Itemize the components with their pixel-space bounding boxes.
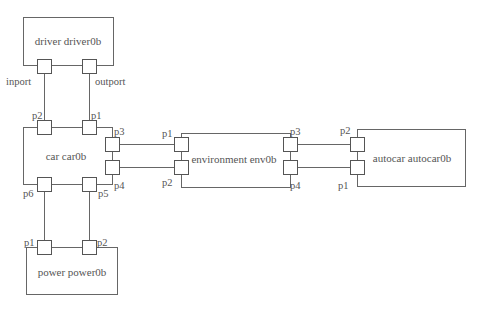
port-label: p2: [340, 125, 351, 136]
port-label: outport: [95, 76, 125, 87]
port-car-p2[interactable]: [38, 121, 52, 135]
port-driver-inport[interactable]: [38, 60, 52, 74]
port-label: p2: [32, 110, 43, 121]
port-label: p2: [162, 177, 173, 188]
block-environment[interactable]: environment env0b p1 p2 p3 p4: [162, 126, 301, 191]
port-car-p6[interactable]: [38, 178, 52, 192]
port-label: p3: [114, 126, 125, 137]
port-env-p4[interactable]: [284, 161, 298, 175]
block-label: driver driver0b: [35, 35, 102, 47]
port-label: p5: [98, 188, 109, 199]
port-car-p5[interactable]: [83, 178, 97, 192]
port-power-p1[interactable]: [38, 241, 52, 255]
block-label: car car0b: [46, 150, 87, 162]
block-diagram: driver driver0b inport outport car car0b…: [0, 0, 481, 313]
block-car[interactable]: car car0b p2 p1 p3 p4 p6 p5: [23, 110, 125, 199]
port-autocar-p1[interactable]: [351, 161, 365, 175]
block-label: environment env0b: [191, 153, 277, 165]
port-label: p4: [114, 180, 125, 191]
block-label: power power0b: [38, 266, 107, 278]
port-label: p2: [97, 237, 108, 248]
block-autocar[interactable]: autocar autocar0b p2 p1: [338, 125, 466, 191]
port-autocar-p2[interactable]: [351, 138, 365, 152]
block-power[interactable]: power power0b p1 p2: [24, 237, 118, 295]
port-label: inport: [6, 76, 31, 87]
port-label: p3: [290, 126, 301, 137]
port-label: p1: [24, 237, 35, 248]
port-label: p6: [23, 188, 34, 199]
port-car-p1[interactable]: [83, 121, 97, 135]
port-car-p3[interactable]: [106, 138, 120, 152]
port-env-p1[interactable]: [175, 138, 189, 152]
port-env-p3[interactable]: [284, 138, 298, 152]
port-label: p1: [162, 128, 173, 139]
port-label: p1: [91, 110, 102, 121]
port-label: p1: [338, 180, 349, 191]
block-label: autocar autocar0b: [373, 152, 452, 164]
port-car-p4[interactable]: [106, 161, 120, 175]
port-driver-outport[interactable]: [83, 60, 97, 74]
port-env-p2[interactable]: [175, 161, 189, 175]
port-label: p4: [290, 180, 301, 191]
port-power-p2[interactable]: [83, 241, 97, 255]
block-driver[interactable]: driver driver0b inport outport: [6, 18, 125, 88]
